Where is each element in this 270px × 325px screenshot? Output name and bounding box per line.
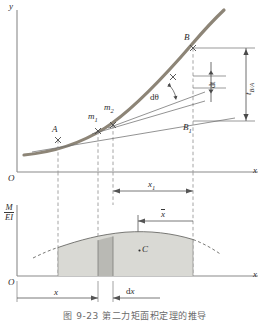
lower-x-axis-label: x [253,270,257,279]
upper-plot-axes [17,10,258,172]
dtheta-label: dθ [150,93,159,102]
tBA-label: tB/A [244,83,255,95]
moment-area-theorem-figure [0,0,270,325]
dt-label: dt [209,82,217,88]
point-label-B1: B1 [183,123,192,134]
bottom-dimension-extensions [17,281,113,302]
dtheta-angle-arc [167,83,177,100]
point-label-A: A [52,125,58,134]
dx-dimension [113,295,160,300]
tangent-lines [32,92,235,152]
centroid-label: C [142,245,148,254]
upper-y-axis-label: y [9,2,13,11]
centroid-marker [138,249,140,251]
x1-label: x1 [148,180,155,191]
figure-caption: 图 9-23 第二力矩面积定理的推导 [0,309,270,322]
upper-origin-label: O [8,174,15,183]
upper-x-axis-label: x [253,166,257,175]
xbar-label: x [161,209,165,219]
point-label-m2: m2 [104,103,114,114]
mei-axis-label: M EI [4,203,14,222]
point-label-B: B [184,33,190,42]
mei-shaded-area [58,232,193,276]
dx-dimension-label: dx [126,287,135,296]
x-dimension-label: x [54,288,58,297]
lower-origin-label: O [8,278,15,287]
point-label-m1: m1 [88,112,98,123]
